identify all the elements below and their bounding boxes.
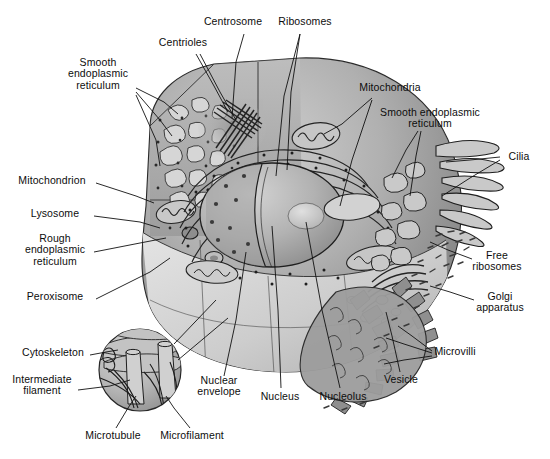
label-centrosome: Centrosome: [204, 16, 262, 27]
nucleus: [200, 163, 344, 268]
label-ribosomes: Ribosomes: [278, 16, 331, 27]
label-centrioles: Centrioles: [159, 37, 207, 48]
label-nucleolus: Nucleolus: [319, 391, 366, 402]
label-nuclear-envelope: Nuclear envelope: [197, 375, 240, 398]
nucleolus: [288, 203, 324, 229]
cell-diagram-figure: CentrosomeRibosomesCentriolesSmooth endo…: [0, 0, 550, 459]
label-lysosome: Lysosome: [31, 208, 79, 219]
label-cytoskeleton: Cytoskeleton: [22, 347, 84, 358]
label-peroxisome: Peroxisome: [27, 291, 83, 302]
label-microtubule: Microtubule: [85, 430, 140, 441]
label-microvilli: Microvilli: [434, 346, 475, 357]
label-mitochondria: Mitochondria: [359, 82, 420, 93]
label-rough-er: Rough endoplasmic reticulum: [25, 233, 85, 267]
leader-mitochondrion: [96, 183, 154, 203]
centrosome: [198, 98, 266, 158]
label-nucleus: Nucleus: [261, 391, 300, 402]
label-vesicle: Vesicle: [384, 374, 418, 385]
label-microfilament: Microfilament: [160, 430, 224, 441]
label-smooth-er-right: Smooth endoplasmic reticulum: [380, 107, 480, 130]
label-golgi-apparatus: Golgi apparatus: [476, 291, 524, 314]
lysosome: [182, 227, 198, 239]
label-cilia: Cilia: [509, 151, 530, 162]
label-intermediate-filament: Intermediate filament: [12, 374, 72, 397]
label-smooth-er-left: Smooth endoplasmic reticulum: [68, 57, 128, 91]
label-free-ribosomes: Free ribosomes: [472, 250, 521, 273]
leader-microfilament: [166, 396, 190, 428]
label-mitochondrion: Mitochondrion: [18, 175, 85, 186]
